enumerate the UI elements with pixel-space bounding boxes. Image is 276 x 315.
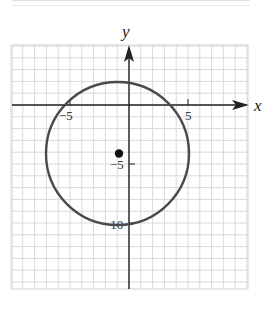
center-point (115, 149, 123, 157)
tick-label-y-neg5: −5 (110, 157, 124, 172)
tick-label-x-pos5: 5 (185, 108, 192, 123)
x-axis-label: x (253, 96, 262, 115)
y-axis-label: y (120, 22, 130, 41)
coordinate-plane: x y −5 5 −5 −10 (0, 0, 276, 315)
